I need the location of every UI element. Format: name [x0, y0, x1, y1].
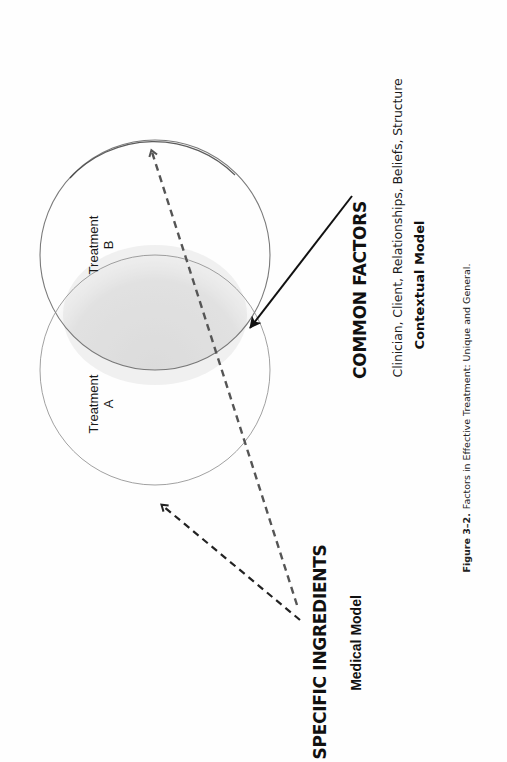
medical-model-label: Medical Model — [348, 595, 364, 691]
figure-page: Treatment B Treatment A COMMON FACTORS C… — [0, 0, 507, 762]
figure-number: Figure 3–2. — [461, 513, 472, 572]
treatment-b-label: Treatment B — [86, 216, 116, 275]
venn-diagram — [0, 0, 507, 762]
solid-arrow-to-overlap — [250, 196, 352, 328]
specific-ingredients-title: SPECIFIC INGREDIENTS — [310, 545, 330, 760]
treatment-b-label-line1: Treatment — [86, 216, 101, 275]
treatment-b-label-line2: B — [101, 216, 116, 275]
figure-caption-text: Factors in Effective Treatment: Unique a… — [461, 264, 472, 510]
treatment-a-label-line2: A — [101, 375, 116, 434]
treatment-a-label-line1: Treatment — [86, 375, 101, 434]
dashed-arrow-to-treatment-a — [163, 506, 300, 620]
figure-caption: Figure 3–2.Factors in Effective Treatmen… — [461, 264, 472, 573]
contextual-model-label: Contextual Model — [412, 221, 427, 350]
treatment-a-label: Treatment A — [86, 375, 116, 434]
overlap-region — [40, 245, 270, 485]
common-factors-title: COMMON FACTORS — [350, 201, 370, 379]
common-factors-items: Clinician, Client, Relationships, Belief… — [390, 79, 405, 378]
